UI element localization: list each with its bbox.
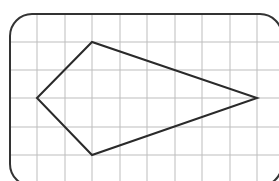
grid-lines xyxy=(10,14,279,181)
kite-grid-diagram xyxy=(0,0,279,181)
